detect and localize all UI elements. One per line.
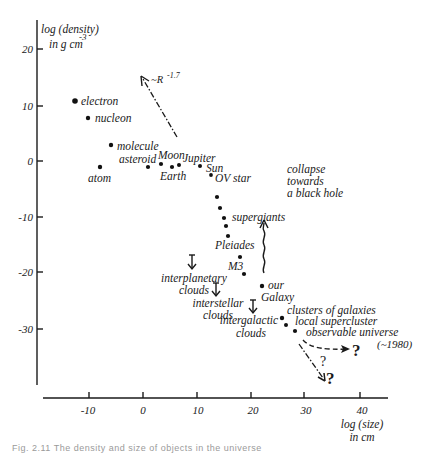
point-star <box>226 234 230 238</box>
label-supergiants: supergiants <box>232 211 286 224</box>
point-our-galaxy <box>260 284 264 288</box>
x-tick-label: 10 <box>193 404 205 416</box>
label-intergalactic: intergalactic <box>220 314 278 327</box>
label-molecule: molecule <box>117 140 159 152</box>
collapse-line2: towards <box>287 175 324 187</box>
limit-intergalactic-icon <box>249 300 257 313</box>
label-pleiades: Pleiades <box>214 239 255 251</box>
point-asteroid <box>146 165 150 169</box>
y-tick-label: -20 <box>18 266 33 278</box>
collapse-note: collapse towards a black hole <box>287 163 343 199</box>
point-local-supercluster <box>284 323 288 327</box>
point-m3 <box>242 272 246 276</box>
label-galaxy: Galaxy <box>261 291 295 304</box>
label-interplanetary-clouds: clouds <box>179 284 210 296</box>
y-axis-title-exponent: -3 <box>79 32 87 42</box>
question-mark-right: ? <box>352 341 361 360</box>
density-size-chart: 20 10 0 -10 -20 -30 -10 0 10 20 30 40 lo… <box>0 0 427 455</box>
wavy-collapse-arrow <box>260 220 268 273</box>
label-asteroid: asteroid <box>119 153 157 165</box>
label-ov-star: OV star <box>215 172 251 184</box>
label-earth: Earth <box>159 170 186 182</box>
point-molecule <box>109 143 113 147</box>
label-m3: M3 <box>227 260 244 272</box>
point-supergiant <box>222 216 226 220</box>
collapse-line3: a black hole <box>287 187 343 199</box>
slope-label: ~R <box>151 74 164 85</box>
limit-interplanetary-icon <box>188 255 196 269</box>
cloud-labels: interplanetary clouds interstellar cloud… <box>161 272 278 339</box>
point-moon <box>159 162 163 166</box>
limit-interstellar-icon <box>212 283 220 296</box>
point-pleiades <box>238 255 242 259</box>
label-intergalactic-clouds: clouds <box>236 327 267 339</box>
x-tick-label: -10 <box>81 404 96 416</box>
y-axis-title-line1: log (density) <box>41 23 99 36</box>
label-nucleon: nucleon <box>95 112 132 124</box>
question-mark-middle: ? <box>320 354 326 369</box>
label-moon: Moon <box>157 149 185 161</box>
x-axis-title-line1: log (size) <box>341 418 384 431</box>
point-jupiter <box>198 164 202 168</box>
point-labels: electron nucleon molecule atom asteroid … <box>81 95 413 351</box>
y-tick-label: 0 <box>28 155 34 167</box>
y-axis <box>37 20 43 385</box>
slope-arrow: ~R -1.7 <box>141 71 181 137</box>
point-supergiant <box>224 224 228 228</box>
point-jupiter-a <box>177 163 181 167</box>
point-ov-star <box>215 195 219 199</box>
figure-caption: Fig. 2.11 The density and size of object… <box>12 443 262 453</box>
y-tick-label: 20 <box>22 43 34 55</box>
x-axis <box>43 392 388 398</box>
point-nucleon <box>86 116 90 120</box>
slope-exponent: -1.7 <box>167 71 181 80</box>
point-observable-universe <box>293 329 297 333</box>
point-electron <box>72 98 78 104</box>
label-observable-universe: observable universe <box>306 326 398 338</box>
question-mark-lower: ? <box>326 369 335 388</box>
point-clusters-of-galaxies <box>280 316 284 320</box>
y-tick-labels: 20 10 0 -10 -20 -30 <box>18 43 33 335</box>
y-tick-label: -10 <box>18 211 33 223</box>
label-atom: atom <box>88 172 111 184</box>
label-electron: electron <box>81 95 119 107</box>
x-tick-label: 0 <box>140 404 146 416</box>
label-interstellar: interstellar <box>192 297 244 309</box>
y-axis-title-line2: in g cm <box>49 38 83 51</box>
x-axis-title-line2: in cm <box>349 431 374 443</box>
future-arrows: ? ? ? <box>299 340 361 388</box>
x-tick-label: 20 <box>248 404 260 416</box>
label-year-1980: (~1980) <box>377 338 413 351</box>
y-tick-label: 10 <box>22 100 34 112</box>
x-tick-label: 30 <box>300 404 313 416</box>
label-our: our <box>268 279 285 291</box>
point-atom <box>98 165 102 169</box>
x-tick-label: 40 <box>357 404 369 416</box>
point-star <box>218 206 222 210</box>
point-earth <box>170 165 174 169</box>
x-tick-labels: -10 0 10 20 30 40 <box>81 404 368 416</box>
y-tick-label: -30 <box>18 323 33 335</box>
